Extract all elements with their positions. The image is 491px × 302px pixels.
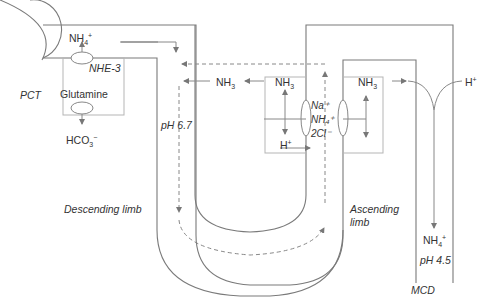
mcd-label: MCD [411,284,435,296]
mcd-h-label: H+ [465,76,477,88]
descending-ph-label: pH 6.7 [161,119,192,131]
hco3-transporter-icon [71,102,93,114]
mcd-nh4-label: NH4+ [423,234,446,246]
nkcc-cotransporter-icon [301,100,311,136]
glutamine-label: Glutamine [60,88,108,100]
mcd-ph-label: pH 4.5 [420,254,451,266]
pct-label: PCT [20,89,41,101]
pct-nh4-label: NH4+ [69,32,92,44]
interstitial-nh3-label: NH3 [358,76,377,88]
descending-limb-label: Descending limb [64,203,142,215]
nkcc-na-label: Na⁺ [311,100,329,112]
nephron-ammonium-diagram: NH4+ NHE-3 PCT Glutamine HCO3− pH 6.7 NH… [0,0,491,302]
ascending-limb-label-line1: Ascending [350,203,399,215]
descending-nh3-label: NH3 [216,76,235,88]
ascending-limb-label-line2: limb [350,216,369,228]
glomerulus-capsule [0,0,46,60]
nhe3-label: NHE-3 [89,62,121,74]
diagram-lines [0,0,491,302]
tal-nh3-label: NH3 [275,76,294,88]
hco3-label: HCO3− [66,134,97,146]
nkcc-cl-label: 2Cl⁻ [311,128,331,140]
tal-h-label: H+ [280,139,292,151]
nkcc-nh4-label: NH₄⁺ [311,114,334,126]
basolateral-transporter-icon [338,100,348,136]
